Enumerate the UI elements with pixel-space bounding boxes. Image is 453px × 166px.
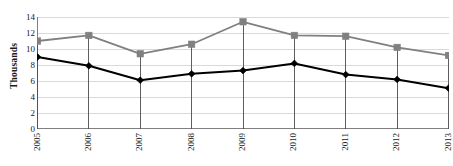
x-axis-tick-label: 2010 [289, 133, 298, 151]
data-point-marker [394, 76, 401, 83]
data-point-marker [86, 32, 92, 38]
data-point-marker [37, 38, 41, 44]
data-point-marker [342, 71, 349, 78]
plot-area [37, 17, 449, 129]
data-point-marker [188, 70, 195, 77]
y-axis-tick-label: 8 [31, 61, 36, 70]
data-point-marker [37, 54, 41, 61]
data-point-marker [240, 67, 247, 74]
x-axis-tick-label: 2005 [33, 133, 42, 151]
data-point-marker [445, 85, 449, 92]
x-axis-tick-label: 2013 [444, 133, 453, 151]
x-axis-tick-label: 2006 [84, 133, 93, 151]
y-axis-tick-label: 2 [31, 109, 36, 118]
data-point-marker [291, 60, 298, 67]
y-axis-tick-label: 4 [31, 93, 36, 102]
data-point-marker [137, 51, 143, 57]
data-point-marker [240, 19, 246, 25]
data-point-marker [137, 77, 144, 84]
x-axis-tick-label: 2008 [187, 133, 196, 151]
x-axis-tick-labels: 200520062007200820092010201120122013 [37, 131, 449, 166]
plot-svg [37, 17, 449, 129]
x-axis-tick-label: 2012 [392, 133, 401, 151]
y-axis-tick-label: 12 [26, 29, 35, 38]
x-axis-tick-label: 2007 [135, 133, 144, 151]
y-axis-tick-label: 14 [26, 13, 35, 22]
data-point-marker [445, 52, 449, 58]
y-axis-tick-label: 6 [31, 77, 36, 86]
x-axis-tick-label: 2011 [341, 133, 350, 151]
data-point-marker [291, 32, 297, 38]
data-point-marker [188, 41, 194, 47]
y-axis-tick-label: 10 [26, 45, 35, 54]
x-axis-tick-label: 2009 [238, 133, 247, 151]
line-chart: Thousands 02468101214 200520062007200820… [0, 0, 453, 166]
data-point-marker [85, 62, 92, 69]
data-point-marker [394, 44, 400, 50]
data-point-marker [343, 33, 349, 39]
